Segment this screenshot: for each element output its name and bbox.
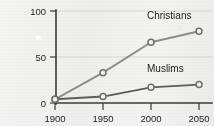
series-label-christians: Christians	[147, 10, 191, 21]
data-point-muslims-2050	[196, 82, 202, 88]
data-point-christians-1950	[100, 70, 106, 76]
data-point-christians-2000	[148, 39, 154, 45]
data-point-muslims-2000	[148, 84, 154, 90]
x-tick-label-2050: 2050	[188, 113, 209, 124]
y-tick-label-100: 100	[30, 6, 46, 17]
y-tick-label-50: 50	[35, 52, 46, 63]
x-tick-label-1950: 1950	[92, 113, 113, 124]
data-point-christians-2050	[196, 28, 202, 34]
chart-canvas: 100 50 0 1900 1950 2000 2050 Christians …	[0, 0, 214, 126]
x-axis: 1900 1950 2000 2050	[44, 103, 212, 124]
y-axis: 100 50 0	[30, 6, 56, 109]
series-label-muslims: Muslims	[147, 63, 184, 74]
data-point-muslims-1900	[52, 96, 58, 102]
y-tick-label-0: 0	[41, 98, 46, 109]
x-tick-label-2000: 2000	[140, 113, 161, 124]
data-point-muslims-1950	[100, 94, 106, 100]
line-chart: 100 50 0 1900 1950 2000 2050 Christians …	[0, 0, 214, 126]
x-tick-label-1900: 1900	[44, 113, 65, 124]
